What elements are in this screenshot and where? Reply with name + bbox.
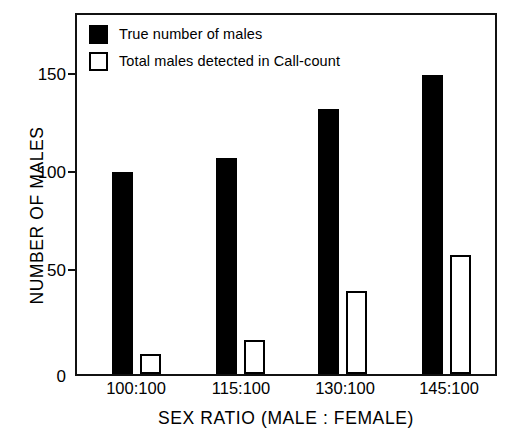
y-tick-label-0: 0 [57,368,66,385]
y-tick-label-50: 50 [47,262,66,279]
bar-100-100-series0 [112,172,133,374]
plot-frame: True number of males Total males detecte… [75,13,497,376]
bar-130-100-series1 [346,291,367,374]
bar-145-100-series1 [450,255,471,374]
x-tick-label-2: 130:100 [285,380,405,397]
bar-chart-figure: NUMBER OF MALES 150 100 50 0 100:100 115… [0,0,515,439]
bar-115-100-series0 [216,158,237,374]
y-tick-label-150: 150 [38,66,66,83]
bar-115-100-series1 [244,340,265,374]
bar-145-100-series0 [422,75,443,374]
x-tick-label-3: 145:100 [389,380,509,397]
plot-area [77,15,495,374]
y-tick-label-100: 100 [38,164,66,181]
x-axis-title: SEX RATIO (MALE : FEMALE) [75,408,497,429]
y-axis-title: NUMBER OF MALES [27,91,48,341]
bar-100-100-series1 [140,354,161,374]
bar-130-100-series0 [318,109,339,374]
x-tick-label-0: 100:100 [76,380,196,397]
x-tick-label-1: 115:100 [181,380,301,397]
